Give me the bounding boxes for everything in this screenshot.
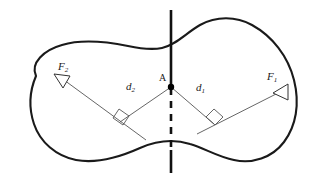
body-outline-path [30, 18, 296, 161]
distance-right-subscript: 1 [202, 87, 206, 95]
force-left-subscript: 2 [65, 66, 69, 74]
force-left-symbol: F [58, 60, 65, 72]
diagram-canvas [0, 0, 311, 182]
figure-container: F2 F1 d2 d1 A [0, 0, 311, 182]
distance-left-symbol: d [126, 80, 132, 92]
distance-left-subscript: 2 [132, 86, 136, 94]
force-right-subscript: 1 [274, 76, 278, 84]
distance-right-label: d1 [196, 82, 205, 93]
distance-left-label: d2 [126, 81, 135, 92]
force-left-label: F2 [58, 61, 68, 72]
force-right-label: F1 [267, 71, 277, 82]
pivot-point-dot [168, 84, 174, 90]
force-right-symbol: F [267, 70, 274, 82]
pivot-point-label: A [159, 73, 166, 83]
distance-right-symbol: d [196, 81, 202, 93]
